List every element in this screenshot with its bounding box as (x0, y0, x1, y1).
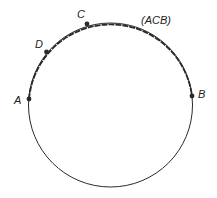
label-c: C (77, 8, 85, 20)
label-d: D (35, 38, 43, 50)
arc-label: (ACB) (141, 14, 171, 26)
point-a (27, 97, 32, 102)
arc-acb (29, 24, 192, 99)
point-b (190, 94, 195, 99)
circle-diagram: A D C B (ACB) (0, 0, 217, 198)
label-a: A (13, 94, 21, 106)
label-b: B (198, 88, 205, 100)
point-d (44, 50, 49, 55)
point-c (85, 22, 90, 27)
